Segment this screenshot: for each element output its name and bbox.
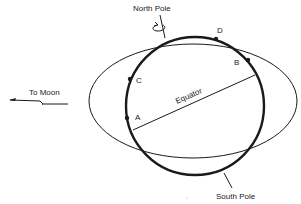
point-a-label: A <box>135 113 141 122</box>
point-b-label: B <box>234 58 239 67</box>
tidal-bulge-ellipse <box>89 44 297 158</box>
equator-line <box>133 75 255 130</box>
to-moon-arrowhead-icon <box>9 98 16 101</box>
to-moon-arrow-icon <box>10 100 68 104</box>
south-pole-label: South Pole <box>216 192 256 201</box>
tidal-bulge-diagram: Equator A C D B North Pole South Pole To… <box>0 0 301 204</box>
dust-speck <box>186 197 187 198</box>
rotation-arrowhead-icon <box>154 22 158 26</box>
point-d-dot <box>214 37 218 41</box>
equator-label: Equator <box>174 86 204 106</box>
north-pole-label: North Pole <box>133 4 171 13</box>
point-d-label: D <box>217 26 223 35</box>
earth-circle <box>126 37 264 175</box>
point-a-dot <box>125 116 129 120</box>
point-b-dot <box>246 58 250 62</box>
to-moon-label: To Moon <box>29 88 60 97</box>
point-c-label: C <box>136 76 142 85</box>
south-axis-line <box>224 173 232 188</box>
point-c-dot <box>128 77 132 81</box>
